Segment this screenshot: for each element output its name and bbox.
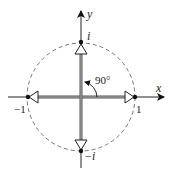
y-axis-label: y (86, 7, 93, 21)
point-neg-1 (26, 95, 30, 99)
vector-to-1 (81, 91, 134, 103)
arrowhead-up-icon (75, 44, 87, 54)
arrowhead-left-icon (29, 91, 38, 103)
vector-to-i (75, 44, 87, 97)
point-1 (133, 95, 137, 99)
point-neg-i (79, 149, 83, 153)
label-1: 1 (136, 103, 142, 115)
label-neg-i: −i (84, 149, 95, 163)
label-i: i (87, 29, 90, 43)
angle-label: 90° (95, 74, 110, 86)
complex-rotation-diagram: y x i 1 −1 −i 90° (0, 0, 172, 176)
point-i (79, 40, 83, 44)
diagram-canvas: y x i 1 −1 −i 90° (0, 0, 172, 176)
label-neg-1: −1 (14, 103, 26, 115)
vector-to-neg-1 (29, 91, 81, 103)
vector-to-neg-i (75, 97, 87, 150)
arrowhead-right-icon (125, 91, 134, 103)
x-axis-label: x (155, 81, 162, 95)
